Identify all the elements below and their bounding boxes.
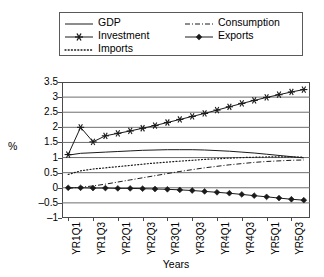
x-tick-label: YR4Q1 bbox=[221, 222, 231, 255]
x-axis-tick-labels: YR1Q1YR1Q3YR2Q1YR2Q3YR3Q1YR3Q3YR4Q1YR4Q3… bbox=[62, 220, 310, 262]
x-tick-label: YR4Q3 bbox=[246, 222, 256, 255]
x-tick-label: YR3Q3 bbox=[196, 222, 206, 255]
x-axis-label-text: Years bbox=[163, 258, 189, 270]
x-tick-label: YR5Q1 bbox=[271, 222, 281, 255]
x-tick-label: YR1Q1 bbox=[72, 222, 82, 255]
x-tick-label: YR2Q3 bbox=[147, 222, 157, 255]
x-tick-label: YR1Q3 bbox=[97, 222, 107, 255]
chart-figure: GDPInvestmentImports ConsumptionExports … bbox=[0, 0, 324, 277]
x-tick-label: YR5Q3 bbox=[295, 222, 305, 255]
x-tick-label: YR2Q1 bbox=[122, 222, 132, 255]
x-tick-label: YR3Q1 bbox=[171, 222, 181, 255]
x-axis-label: Years bbox=[0, 258, 324, 270]
